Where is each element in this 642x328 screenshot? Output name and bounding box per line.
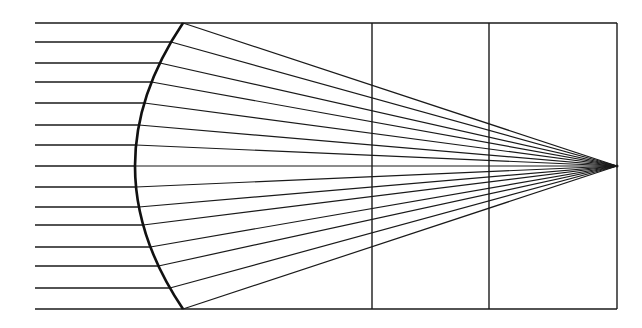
refracted-ray-13 — [158, 166, 617, 266]
refracted-ray-12 — [150, 166, 617, 247]
focal-point — [616, 165, 619, 168]
refracted-ray-14 — [170, 166, 617, 288]
refracted-ray-15 — [183, 166, 617, 309]
refracted-ray-7 — [136, 145, 617, 166]
refracted-ray-10 — [139, 166, 617, 207]
refracted-ray-9 — [136, 166, 617, 187]
refracted-ray-4 — [152, 82, 617, 166]
refracted-ray-11 — [143, 166, 617, 225]
diagram-canvas — [0, 0, 642, 328]
refracted-ray-1 — [183, 23, 617, 166]
ray-diagram — [0, 0, 642, 328]
